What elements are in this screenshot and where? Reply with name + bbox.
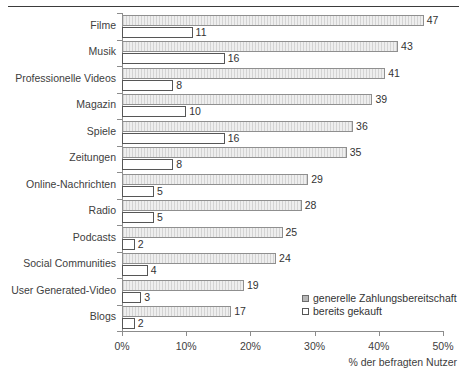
x-axis-tick-label: 0% (114, 340, 129, 352)
bar-value-label: 2 (138, 239, 144, 250)
legend-item-general[interactable]: generelle Zahlungsbereitschaft (302, 292, 457, 305)
bar-value-label: 5 (157, 212, 163, 223)
legend-label-general: generelle Zahlungsbereitschaft (313, 292, 457, 305)
legend-item-bought[interactable]: bereits gekauft (302, 305, 457, 318)
bar-bought (122, 318, 135, 329)
bar-general (122, 41, 398, 52)
bar-value-label: 2 (138, 318, 144, 329)
bar-bought (122, 239, 135, 250)
chart-legend: generelle Zahlungsbereitschaft bereits g… (302, 292, 457, 318)
x-axis-tick-label: 30% (304, 340, 325, 352)
bar-value-label: 16 (228, 53, 240, 64)
category-label: Podcasts (73, 232, 116, 243)
category-label: Musik (89, 46, 116, 57)
x-axis-tick (186, 331, 187, 336)
bar-bought (122, 212, 154, 223)
bar-value-label: 28 (305, 200, 317, 211)
bar-value-label: 10 (189, 106, 201, 117)
bar-value-label: 39 (375, 94, 387, 105)
bar-value-label: 35 (350, 147, 362, 158)
bar-value-label: 41 (388, 68, 400, 79)
bar-value-label: 47 (427, 15, 439, 26)
bar-value-label: 36 (356, 121, 368, 132)
bar-general (122, 227, 283, 238)
bar-bought (122, 292, 141, 303)
x-axis-tick-label: 10% (176, 340, 197, 352)
bar-bought (122, 53, 225, 64)
bar-bought (122, 106, 186, 117)
category-label: Radio (89, 205, 116, 216)
bar-general (122, 253, 276, 264)
bar-value-label: 5 (157, 186, 163, 197)
x-axis-tick-label: 40% (368, 340, 389, 352)
category-label: Magazin (76, 99, 116, 110)
legend-swatch-general-icon (302, 295, 309, 302)
horizontal-bar-chart: Filme4711Musik4316Professionelle Videos4… (0, 0, 465, 375)
category-label: User Generated-Video (11, 285, 116, 296)
category-label: Professionelle Videos (15, 73, 116, 84)
bar-bought (122, 27, 193, 38)
legend-swatch-bought-icon (302, 308, 309, 315)
bar-general (122, 280, 244, 291)
bar-value-label: 8 (176, 80, 182, 91)
legend-label-bought: bereits gekauft (313, 305, 382, 318)
bar-value-label: 29 (311, 174, 323, 185)
bar-bought (122, 133, 225, 144)
bar-value-label: 3 (144, 292, 150, 303)
bar-value-label: 43 (401, 41, 413, 52)
category-label: Blogs (90, 311, 116, 322)
x-axis-tick (379, 331, 380, 336)
bar-value-label: 4 (151, 265, 157, 276)
x-axis-tick (443, 331, 444, 336)
category-label: Zeitungen (69, 152, 116, 163)
bar-bought (122, 265, 148, 276)
bar-value-label: 17 (234, 306, 246, 317)
bar-value-label: 8 (176, 159, 182, 170)
bar-general (122, 174, 308, 185)
category-label: Filme (90, 20, 116, 31)
bar-bought (122, 80, 173, 91)
bar-general (122, 147, 347, 158)
x-axis-tick (122, 331, 123, 336)
category-label: Social Communities (23, 258, 116, 269)
x-axis-tick (250, 331, 251, 336)
bar-general (122, 200, 302, 211)
bar-value-label: 11 (196, 27, 207, 38)
bar-general (122, 15, 424, 26)
bar-value-label: 16 (228, 133, 240, 144)
bar-value-label: 25 (286, 227, 298, 238)
bar-bought (122, 186, 154, 197)
bar-value-label: 19 (247, 280, 259, 291)
x-axis-line (122, 331, 443, 332)
x-axis-tick (315, 331, 316, 336)
bar-general (122, 306, 231, 317)
bar-general (122, 94, 372, 105)
bar-general (122, 68, 385, 79)
x-axis-tick-label: 20% (240, 340, 261, 352)
x-axis-tick-label: 50% (432, 340, 453, 352)
bar-general (122, 121, 353, 132)
bar-value-label: 24 (279, 253, 291, 264)
category-label: Spiele (87, 126, 116, 137)
x-axis-title: % der befragten Nutzer (348, 356, 457, 368)
bar-bought (122, 159, 173, 170)
category-label: Online-Nachrichten (26, 179, 116, 190)
